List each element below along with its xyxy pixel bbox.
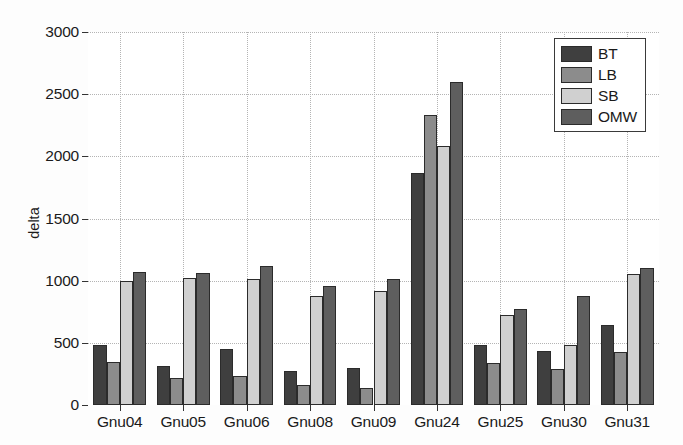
bar-gnu24-sb xyxy=(437,146,450,405)
y-tick-label: 1000 xyxy=(45,272,79,290)
x-tick-mark xyxy=(500,405,501,411)
bar-gnu30-lb xyxy=(551,369,564,405)
bar-gnu05-sb xyxy=(183,278,196,405)
bar-gnu25-lb xyxy=(487,363,500,405)
bar-gnu08-sb xyxy=(310,296,323,405)
y-tick-mark xyxy=(82,343,88,344)
bar-gnu24-lb xyxy=(424,115,437,405)
bar-gnu06-lb xyxy=(233,376,246,405)
bar-gnu31-bt xyxy=(601,325,614,405)
legend-entry-bt: BT xyxy=(561,44,637,63)
x-tick-label: Gnu06 xyxy=(224,413,270,431)
bar-gnu06-bt xyxy=(220,349,233,405)
bar-gnu04-bt xyxy=(93,345,106,405)
legend-entry-lb: LB xyxy=(561,65,637,84)
legend-swatch-sb xyxy=(561,88,592,104)
bar-gnu06-sb xyxy=(247,279,260,405)
y-tick-mark xyxy=(82,156,88,157)
gridline-horizontal xyxy=(88,281,659,282)
bar-gnu08-omw xyxy=(323,286,336,405)
y-tick-mark xyxy=(82,94,88,95)
legend-label: BT xyxy=(598,46,617,62)
legend-label: OMW xyxy=(598,109,637,125)
x-tick-label: Gnu31 xyxy=(604,413,650,431)
bar-gnu09-lb xyxy=(360,388,373,405)
legend-label: LB xyxy=(598,67,617,83)
bar-gnu09-omw xyxy=(387,279,400,405)
y-tick-mark xyxy=(82,219,88,220)
bar-gnu24-omw xyxy=(450,82,463,405)
x-tick-label: Gnu04 xyxy=(97,413,143,431)
x-tick-mark xyxy=(183,405,184,411)
legend-swatch-bt xyxy=(561,46,592,62)
legend-swatch-omw xyxy=(561,109,592,125)
x-tick-mark xyxy=(437,405,438,411)
x-tick-mark xyxy=(564,405,565,411)
bar-gnu05-omw xyxy=(196,273,209,405)
legend-entry-sb: SB xyxy=(561,86,637,105)
bar-gnu04-lb xyxy=(107,362,120,405)
chart-legend: BTLBSBOMW xyxy=(554,38,646,132)
gridline-horizontal xyxy=(88,32,659,33)
bar-gnu09-bt xyxy=(347,368,360,405)
bar-gnu09-sb xyxy=(374,291,387,405)
bar-gnu05-lb xyxy=(170,378,183,405)
bar-gnu08-bt xyxy=(284,371,297,405)
bar-gnu05-bt xyxy=(157,366,170,405)
y-tick-mark xyxy=(82,281,88,282)
y-tick-label: 2500 xyxy=(45,85,79,103)
bar-gnu25-sb xyxy=(500,315,513,405)
x-tick-label: Gnu09 xyxy=(351,413,397,431)
legend-swatch-lb xyxy=(561,67,592,83)
bar-gnu06-omw xyxy=(260,266,273,405)
x-tick-label: Gnu30 xyxy=(541,413,587,431)
x-tick-label: Gnu25 xyxy=(478,413,524,431)
bar-gnu24-bt xyxy=(411,173,424,405)
x-tick-mark xyxy=(374,405,375,411)
bar-gnu30-bt xyxy=(537,351,550,405)
y-tick-label: 500 xyxy=(54,334,79,352)
x-tick-label: Gnu05 xyxy=(160,413,206,431)
y-tick-label: 3000 xyxy=(45,23,79,41)
x-tick-mark xyxy=(627,405,628,411)
bar-gnu04-sb xyxy=(120,281,133,405)
chart-figure: delta 050010001500200025003000 Gnu04Gnu0… xyxy=(0,0,683,445)
x-tick-mark xyxy=(247,405,248,411)
bar-gnu25-bt xyxy=(474,345,487,405)
x-tick-mark xyxy=(120,405,121,411)
bar-gnu25-omw xyxy=(514,309,527,405)
bar-gnu30-sb xyxy=(564,345,577,405)
y-tick-mark xyxy=(82,405,88,406)
y-axis-title: delta xyxy=(26,207,42,238)
y-tick-mark xyxy=(82,32,88,33)
bar-gnu30-omw xyxy=(577,296,590,405)
bar-gnu08-lb xyxy=(297,385,310,405)
gridline-horizontal xyxy=(88,219,659,220)
x-tick-label: Gnu08 xyxy=(287,413,333,431)
gridline-horizontal xyxy=(88,156,659,157)
legend-entry-omw: OMW xyxy=(561,107,637,126)
y-tick-label: 2000 xyxy=(45,147,79,165)
x-tick-label: Gnu24 xyxy=(414,413,460,431)
y-tick-label: 0 xyxy=(71,396,79,414)
bar-gnu31-sb xyxy=(627,274,640,405)
bar-gnu04-omw xyxy=(133,272,146,405)
legend-label: SB xyxy=(598,88,618,104)
bar-gnu31-lb xyxy=(614,352,627,405)
x-tick-mark xyxy=(310,405,311,411)
bar-gnu31-omw xyxy=(640,268,653,405)
y-tick-label: 1500 xyxy=(45,210,79,228)
